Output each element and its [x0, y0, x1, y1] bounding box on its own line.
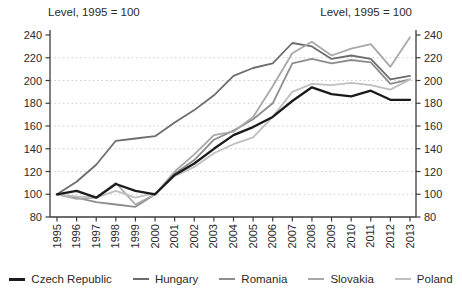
chart-legend: Czech RepublicHungaryRomaniaSlovakiaPola… — [0, 273, 462, 285]
series-line-slovakia — [57, 37, 410, 204]
legend-item-czech-republic: Czech Republic — [9, 273, 112, 285]
y-tick-label-right-240: 240 — [424, 29, 442, 41]
x-tick-label-2013: 2013 — [404, 224, 416, 248]
y-tick-label-left-180: 180 — [24, 97, 42, 109]
axis-unit-label-right: Level, 1995 = 100 — [320, 6, 412, 18]
x-tick-label-2008: 2008 — [305, 224, 317, 248]
legend-label-poland: Poland — [417, 273, 453, 285]
x-tick-label-2003: 2003 — [207, 224, 219, 248]
line-chart-figure: Level, 1995 = 100 Level, 1995 = 100 8010… — [0, 0, 462, 291]
y-tick-label-left-200: 200 — [24, 75, 42, 87]
x-tick-label-2012: 2012 — [384, 224, 396, 248]
y-tick-label-right-200: 200 — [424, 75, 442, 87]
gridlines — [50, 58, 416, 195]
y-tick-label-left-80: 80 — [30, 211, 42, 223]
legend-line-swatch-hungary — [133, 278, 149, 280]
series-line-poland — [57, 79, 410, 197]
series-line-hungary — [57, 43, 410, 194]
series-line-czech-republic — [57, 87, 410, 197]
legend-line-swatch-romania — [219, 278, 235, 280]
legend-item-poland: Poland — [395, 273, 453, 285]
y-tick-label-left-240: 240 — [24, 29, 42, 41]
x-axis-labels: 1995199619971998199920002001200220032004… — [51, 224, 416, 248]
y-tick-label-left-140: 140 — [24, 143, 42, 155]
legend-line-swatch-slovakia — [308, 278, 324, 280]
x-tick-label-2001: 2001 — [168, 224, 180, 248]
y-tick-label-right-140: 140 — [424, 143, 442, 155]
legend-item-slovakia: Slovakia — [308, 273, 373, 285]
axis-unit-label-left: Level, 1995 = 100 — [48, 6, 140, 18]
series-lines — [57, 37, 410, 207]
legend-item-hungary: Hungary — [133, 273, 198, 285]
x-tick-label-2005: 2005 — [247, 224, 259, 248]
legend-item-romania: Romania — [219, 273, 287, 285]
series-line-romania — [57, 59, 410, 207]
x-tick-label-2011: 2011 — [364, 224, 376, 248]
y-axis-labels-left: 80100120140160180200220240 — [24, 29, 42, 223]
y-tick-label-left-100: 100 — [24, 188, 42, 200]
y-tick-label-right-100: 100 — [424, 188, 442, 200]
x-tick-label-2009: 2009 — [325, 224, 337, 248]
legend-label-slovakia: Slovakia — [330, 273, 373, 285]
y-tick-label-right-120: 120 — [424, 166, 442, 178]
chart-svg: Level, 1995 = 100 Level, 1995 = 100 8010… — [0, 0, 462, 291]
x-tick-label-1998: 1998 — [109, 224, 121, 248]
y-tick-label-right-160: 160 — [424, 120, 442, 132]
y-tick-label-right-80: 80 — [424, 211, 436, 223]
x-tick-label-2004: 2004 — [227, 224, 239, 248]
legend-label-hungary: Hungary — [155, 273, 198, 285]
y-tick-label-left-160: 160 — [24, 120, 42, 132]
y-tick-label-left-220: 220 — [24, 52, 42, 64]
x-tick-label-1995: 1995 — [51, 224, 63, 248]
y-tick-label-right-220: 220 — [424, 52, 442, 64]
legend-label-czech-republic: Czech Republic — [31, 273, 112, 285]
x-tick-label-2002: 2002 — [188, 224, 200, 248]
y-axis-labels-right: 80100120140160180200220240 — [424, 29, 442, 223]
legend-label-romania: Romania — [241, 273, 287, 285]
x-tick-label-2010: 2010 — [345, 224, 357, 248]
legend-line-swatch-poland — [395, 278, 411, 280]
x-tick-label-1996: 1996 — [70, 224, 82, 248]
y-tick-label-left-120: 120 — [24, 166, 42, 178]
x-tick-label-2007: 2007 — [286, 224, 298, 248]
x-tick-label-2006: 2006 — [266, 224, 278, 248]
x-tick-label-1999: 1999 — [129, 224, 141, 248]
legend-line-swatch-czech-republic — [9, 278, 25, 281]
x-tick-label-1997: 1997 — [90, 224, 102, 248]
x-tick-label-2000: 2000 — [149, 224, 161, 248]
y-tick-label-right-180: 180 — [424, 97, 442, 109]
